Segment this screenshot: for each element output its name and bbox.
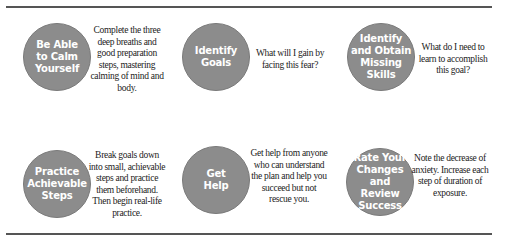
step-description: Complete the three deep breaths and good… [88,25,166,94]
step-title: Be Able to Calm Yourself [33,39,81,75]
top-divider [6,6,492,8]
step-title: Rate Your Changes and Review Success [347,152,413,212]
step-title: Identify Goals [193,45,239,69]
step-circle-practice-steps: Practice Achievable Steps [23,150,91,218]
step-description: What do I need to learn to accomplish th… [414,42,492,77]
step-circle-identify-goals: Identify Goals [182,23,250,91]
step-title: Get Help [202,168,231,192]
step-circle-rate-changes: Rate Your Changes and Review Success [346,148,414,216]
step-description: Get help from anyone who can understand … [250,148,328,206]
step-circle-calm-yourself: Be Able to Calm Yourself [23,23,91,91]
step-description: What will I gain by facing this fear? [251,48,329,71]
step-description: Break goals down into small, achievable … [88,150,166,219]
step-description: Note the decrease of anxiety. Increase e… [411,153,489,199]
bottom-divider [6,233,492,235]
step-circle-get-help: Get Help [182,146,250,214]
step-title: Identify and Obtain Missing Skills [349,33,413,81]
step-circle-missing-skills: Identify and Obtain Missing Skills [347,23,415,91]
step-title: Practice Achievable Steps [25,166,89,202]
